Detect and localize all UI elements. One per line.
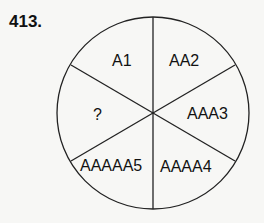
segment-label-bottom-left: AAAAA5: [80, 157, 142, 174]
segment-label-top-left: A1: [112, 52, 132, 69]
segment-label-top-right: AA2: [169, 52, 199, 69]
segment-label-bottom-right: AAAA4: [160, 158, 212, 175]
segment-label-right: AAA3: [187, 105, 228, 122]
circle-diagram: A1 AA2 AAA3 AAAA4 AAAAA5 ?: [0, 0, 264, 223]
segment-label-left: ?: [93, 106, 102, 123]
